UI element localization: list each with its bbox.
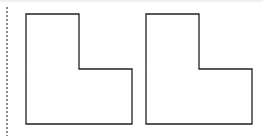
l-shape-right: [146, 14, 252, 124]
l-shape-left: [26, 14, 132, 124]
diagram-canvas: [0, 0, 263, 136]
